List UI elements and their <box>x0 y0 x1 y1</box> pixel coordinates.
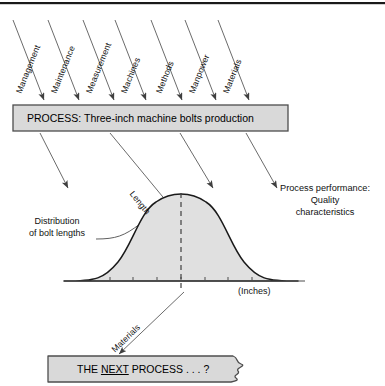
materials-arrow <box>119 292 184 354</box>
top-divider-rule <box>0 2 385 4</box>
process-box-label: PROCESS: Three-inch machine bolts produc… <box>27 112 254 124</box>
process-performance-line1: Process performance: <box>268 182 382 194</box>
process-performance-line3: characteristics <box>268 206 382 218</box>
process-flow-diagram: Management Maintenance Measurement Machi… <box>0 0 385 386</box>
process-performance-callout: Process performance: Quality characteris… <box>268 182 382 218</box>
output-arrow-left <box>40 133 68 188</box>
output-arrows-group <box>40 133 277 208</box>
distribution-callout: Distribution of bolt lengths <box>16 216 98 239</box>
next-process-suffix: PROCESS . . . ? <box>129 363 210 375</box>
process-performance-line2: Quality <box>268 194 382 206</box>
distribution-callout-line2: of bolt lengths <box>16 228 98 240</box>
next-process-box-label: THE NEXT PROCESS . . . ? <box>77 363 209 375</box>
next-process-prefix: THE <box>77 363 101 375</box>
distribution-callout-line1: Distribution <box>16 216 98 228</box>
output-arrow-mid <box>180 133 213 188</box>
output-arrow-right <box>246 133 277 188</box>
axis-unit-label: (Inches) <box>238 286 271 297</box>
next-process-emphasis: NEXT <box>101 363 129 375</box>
